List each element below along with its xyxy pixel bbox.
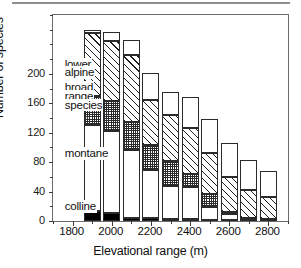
bar-segment-montane [103, 131, 120, 213]
bar-segment-broad-range-species [142, 145, 159, 170]
x-tick [131, 221, 132, 224]
bar [201, 15, 218, 221]
legend-label-species: species [64, 99, 104, 112]
bar-segment-lower-alpine [123, 55, 140, 123]
bar [182, 15, 199, 221]
x-tick-label: 2800 [255, 225, 280, 237]
bar-segment-lower-alpine [201, 153, 218, 193]
x-tick [92, 221, 93, 224]
bar-segment-upper [201, 119, 218, 154]
bar-segment-broad-range-species [162, 161, 179, 186]
bar-segment-montane [201, 207, 218, 220]
y-tick-label: 40 [33, 185, 45, 197]
bar-segment-broad-range-species [123, 122, 140, 150]
bar [123, 15, 140, 221]
bar-segment-lower-alpine [162, 115, 179, 161]
x-tick [288, 221, 289, 224]
bar-segment-broad-range-species [103, 101, 120, 131]
bar [84, 15, 101, 221]
x-tick-label: 2400 [177, 225, 202, 237]
bar-segment-lower-alpine [260, 197, 277, 219]
y-tick-label: 0 [39, 214, 45, 226]
bar [221, 15, 238, 221]
bar-segment-montane [84, 125, 101, 211]
bar-segment-upper [103, 32, 120, 41]
bar [260, 15, 277, 221]
top-rule-artifact [12, 2, 290, 4]
legend-label-alpine: alpine [64, 66, 96, 79]
bar-segment-lower-alpine [221, 177, 238, 212]
y-tick-label: 120 [27, 126, 45, 138]
bar [142, 15, 159, 221]
x-tick [210, 221, 211, 224]
x-tick-label: 2600 [216, 225, 241, 237]
x-tick-label: 2000 [98, 225, 123, 237]
bar-segment-lower-alpine [103, 41, 120, 101]
bar-segment-lower-alpine [182, 128, 199, 174]
y-axis-title: Number of species [0, 17, 6, 118]
legend-label-colline: colline [64, 200, 97, 213]
y-tick-label: 80 [33, 155, 45, 167]
bar-segment-upper [123, 40, 140, 55]
bar-segment-upper [260, 171, 277, 197]
bar-segment-broad-range-species [201, 194, 218, 207]
y-tick-label: 160 [27, 96, 45, 108]
bar-segment-upper [182, 97, 199, 129]
bar-segment-montane [123, 150, 140, 218]
bar-segment-upper [221, 143, 238, 177]
x-tick [249, 221, 250, 224]
chart-figure: Number of species loweralpinebroadranges… [0, 0, 301, 268]
x-tick-label: 1800 [59, 225, 84, 237]
bar-segment-lower-alpine [142, 100, 159, 144]
bar-segment-upper [162, 92, 179, 116]
x-tick-label: 2200 [138, 225, 163, 237]
bar-segment-colline [103, 213, 120, 221]
bar-segment-upper [142, 73, 159, 100]
bar-segment-lower-alpine [240, 190, 257, 218]
x-tick [171, 221, 172, 224]
bar-segment-montane [221, 214, 238, 220]
x-axis-title: Elevational range (m) [0, 244, 301, 258]
bar-segment-montane [182, 187, 199, 219]
bar-segment-upper [240, 160, 257, 190]
x-tick [53, 221, 54, 224]
bar-series-group [53, 15, 288, 221]
bar [162, 15, 179, 221]
bar [240, 15, 257, 221]
bar-segment-upper [84, 30, 101, 33]
bar [103, 15, 120, 221]
bar-segment-broad-range-species [221, 212, 238, 214]
legend-label-montane: montane [64, 147, 109, 160]
bar-segment-broad-range-species [182, 174, 199, 187]
bar-segment-colline [84, 211, 101, 221]
y-tick-label: 200 [27, 67, 45, 79]
plot-area: loweralpinebroadrangespeciesmontanecolli… [52, 14, 289, 222]
bar-segment-montane [162, 186, 179, 219]
bar-segment-montane [142, 170, 159, 219]
